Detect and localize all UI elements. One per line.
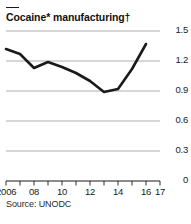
x-axis-tick-label: 08 bbox=[29, 186, 39, 197]
y-axis-tick-label: 0.6 bbox=[175, 114, 188, 125]
y-axis-tick-label: 1.2 bbox=[175, 54, 188, 65]
source-note: Source: UNODC bbox=[6, 199, 71, 209]
x-axis-ticks bbox=[6, 181, 160, 186]
page-title: Cocaine* manufacturing† bbox=[6, 11, 186, 23]
gridlines bbox=[6, 31, 160, 181]
data-series-line bbox=[6, 44, 146, 92]
y-axis-tick-label: 1.5 bbox=[175, 24, 188, 35]
y-axis-tick-label: 0.3 bbox=[175, 144, 188, 155]
y-axis-tick-label: 0 bbox=[183, 174, 188, 185]
x-axis-tick-label: 17 bbox=[155, 186, 165, 197]
x-axis-tick-label: 14 bbox=[113, 186, 123, 197]
x-axis-tick-label: 12 bbox=[85, 186, 95, 197]
x-axis-tick-label: 2006 bbox=[0, 186, 16, 197]
line-chart-svg bbox=[0, 24, 191, 186]
plot-area bbox=[0, 24, 191, 186]
x-axis-tick-label: 10 bbox=[57, 186, 67, 197]
x-axis-tick-label: 16 bbox=[141, 186, 151, 197]
title-rule bbox=[6, 7, 19, 8]
y-axis-tick-label: 0.9 bbox=[175, 84, 188, 95]
chart-card: Cocaine* manufacturing† 00.30.60.91.21.5… bbox=[0, 0, 191, 224]
